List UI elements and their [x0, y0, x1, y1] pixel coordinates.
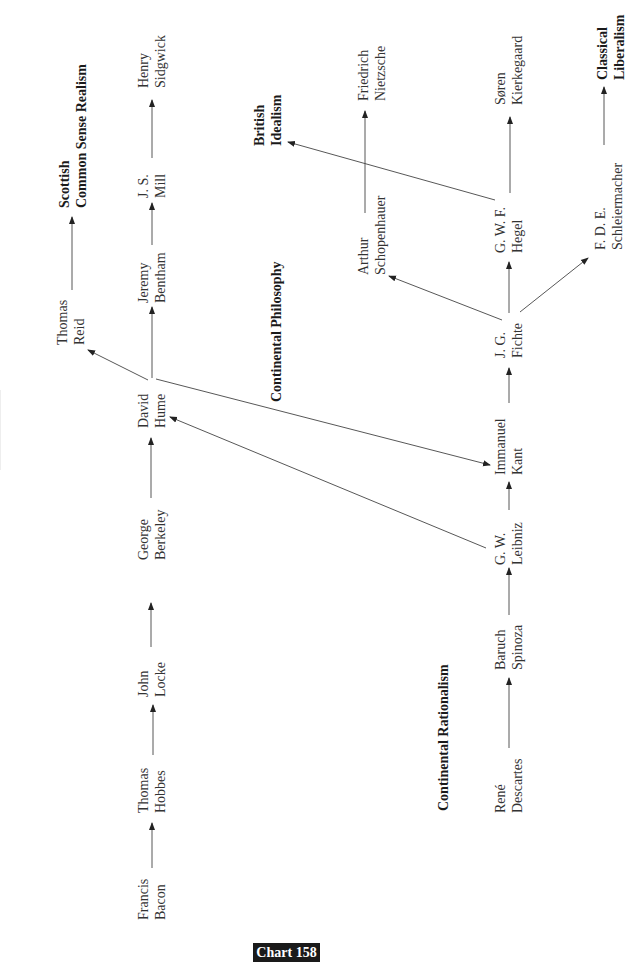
last-name: Bentham	[152, 252, 169, 303]
edge-hegel-british-idealism	[288, 142, 495, 200]
node-david-hume: David Hume	[135, 394, 169, 428]
node-gwf-hegel: G. W. F. Hegel	[492, 207, 526, 253]
school-classical-liberalism: Classical Liberalism	[594, 15, 628, 80]
node-fde-schleiermacher: F. D. E. Schleiermacher	[592, 163, 626, 250]
school-continental-rationalism: Continental Rationalism	[435, 664, 452, 811]
school-scottish-common-sense-realism: Scottish Common Sense Realism	[56, 64, 90, 208]
last-name: Mill	[152, 174, 169, 198]
node-george-berkeley: George Berkeley	[135, 509, 169, 560]
school-line-2: Idealism	[268, 95, 285, 146]
last-name: Hume	[152, 394, 169, 428]
edge-hume-kant	[156, 379, 490, 465]
node-jeremy-bentham: Jeremy Bentham	[135, 252, 169, 303]
node-henry-sidgwick: Henry Sidgwick	[135, 35, 169, 88]
last-name: Fichte	[509, 323, 526, 358]
last-name: Leibniz	[509, 522, 526, 565]
last-name: Bacon	[152, 879, 169, 920]
node-thomas-reid: Thomas Reid	[54, 300, 88, 345]
node-friedrich-nietzsche: Friedrich Nietzsche	[355, 46, 389, 101]
edge-fichte-schleiermacher	[520, 258, 588, 312]
node-thomas-hobbes: Thomas Hobbes	[135, 768, 169, 813]
last-name: Spinoza	[509, 625, 526, 670]
chart-number-badge: Chart 158	[253, 943, 320, 962]
first-name: René	[492, 759, 509, 813]
school-line-1: Classical	[594, 15, 611, 80]
node-jg-fichte: J. G. Fichte	[492, 323, 526, 358]
last-name: Kierkegaard	[509, 36, 526, 105]
edge-hume-reid	[88, 350, 148, 380]
last-name: Hegel	[509, 207, 526, 253]
first-name: Thomas	[54, 300, 71, 345]
first-name: F. D. E.	[592, 163, 609, 250]
first-name: Søren	[492, 36, 509, 105]
clipped-edge-fragment	[0, 390, 5, 470]
school-line-1: Scottish	[56, 64, 73, 208]
last-name: Schopenhauer	[372, 196, 389, 275]
first-name: David	[135, 394, 152, 428]
first-name: Baruch	[492, 625, 509, 670]
first-name: G. W. F.	[492, 207, 509, 253]
last-name: Hobbes	[152, 768, 169, 813]
last-name: Reid	[71, 300, 88, 345]
node-js-mill: J. S. Mill	[135, 174, 169, 198]
first-name: George	[135, 509, 152, 560]
last-name: Nietzsche	[372, 46, 389, 101]
school-line-2: Liberalism	[611, 15, 628, 80]
school-line-1: British	[251, 95, 268, 146]
first-name: Francis	[135, 879, 152, 920]
last-name: Kant	[509, 418, 526, 475]
last-name: Berkeley	[152, 509, 169, 560]
last-name: Sidgwick	[152, 35, 169, 88]
edges-layer	[0, 0, 638, 962]
node-rene-descartes: René Descartes	[492, 759, 526, 813]
node-francis-bacon: Francis Bacon	[135, 879, 169, 920]
school-continental-philosophy: Continental Philosophy	[268, 262, 285, 402]
first-name: Immanuel	[492, 418, 509, 475]
last-name: Descartes	[509, 759, 526, 813]
node-soren-kierkegaard: Søren Kierkegaard	[492, 36, 526, 105]
first-name: G. W.	[492, 522, 509, 565]
node-baruch-spinoza: Baruch Spinoza	[492, 625, 526, 670]
philosophy-lineage-diagram: Francis Bacon Thomas Hobbes John Locke G…	[0, 0, 638, 962]
school-british-idealism: British Idealism	[251, 95, 285, 146]
first-name: John	[135, 662, 152, 697]
node-immanuel-kant: Immanuel Kant	[492, 418, 526, 475]
school-line-1: Continental Philosophy	[268, 262, 285, 402]
first-name: J. S.	[135, 174, 152, 198]
first-name: Arthur	[355, 196, 372, 275]
last-name: Locke	[152, 662, 169, 697]
node-arthur-schopenhauer: Arthur Schopenhauer	[355, 196, 389, 275]
edge-fichte-schopenhauer	[389, 276, 502, 320]
first-name: Friedrich	[355, 46, 372, 101]
node-john-locke: John Locke	[135, 662, 169, 697]
node-gw-leibniz: G. W. Leibniz	[492, 522, 526, 565]
edge-leibniz-hume	[170, 417, 486, 548]
first-name: Thomas	[135, 768, 152, 813]
last-name: Schleiermacher	[609, 163, 626, 250]
first-name: Jeremy	[135, 252, 152, 303]
school-line-2: Common Sense Realism	[73, 64, 90, 208]
first-name: J. G.	[492, 323, 509, 358]
school-line-1: Continental Rationalism	[435, 664, 452, 811]
first-name: Henry	[135, 35, 152, 88]
